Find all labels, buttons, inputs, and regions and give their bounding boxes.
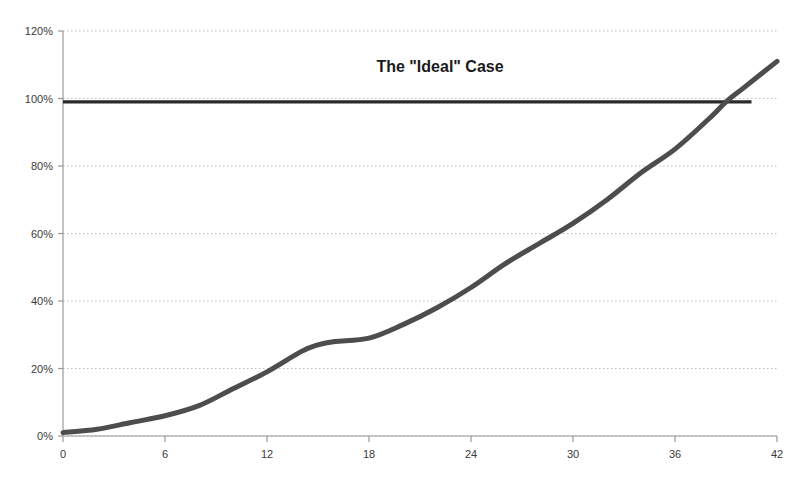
chart-title: The "Ideal" Case bbox=[376, 58, 503, 75]
y-axis-label-120: 120% bbox=[25, 25, 53, 37]
x-axis-label-12: 12 bbox=[261, 448, 273, 460]
x-axis-label-24: 24 bbox=[465, 448, 477, 460]
x-axis-label-30: 30 bbox=[567, 448, 579, 460]
y-axis-label-20: 20% bbox=[31, 363, 53, 375]
y-axis-label-0: 0% bbox=[37, 430, 53, 442]
y-axis-label-60: 60% bbox=[31, 228, 53, 240]
line-chart: 0%20%40%60%80%100%120% 06121824303642 Th… bbox=[0, 0, 812, 486]
y-axis-label-100: 100% bbox=[25, 93, 53, 105]
y-axis-label-80: 80% bbox=[31, 160, 53, 172]
x-axis-label-36: 36 bbox=[669, 448, 681, 460]
x-axis-label-42: 42 bbox=[771, 448, 783, 460]
x-axis-label-18: 18 bbox=[363, 448, 375, 460]
chart-container: 0%20%40%60%80%100%120% 06121824303642 Th… bbox=[0, 0, 812, 486]
y-axis-label-40: 40% bbox=[31, 295, 53, 307]
x-axis-label-6: 6 bbox=[162, 448, 168, 460]
x-axis-label-0: 0 bbox=[60, 448, 66, 460]
